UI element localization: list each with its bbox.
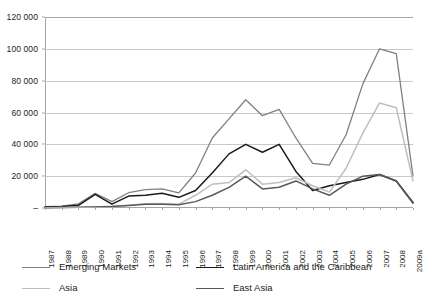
x-axis-tick [179,208,180,210]
y-axis-label: 80 000 [11,76,38,85]
y-axis-label: 120 000 [7,13,38,22]
legend-swatch-icon [22,288,50,289]
y-axis-label: 40 000 [11,140,38,149]
chart-legend: Emerging MarketsLatin America and the Ca… [0,258,418,304]
x-axis-tick [145,208,146,210]
legend-swatch-icon [196,267,224,268]
legend-item[interactable]: Latin America and the Caribbean [196,262,371,272]
y-axis-label: – [33,204,38,213]
x-axis-tick [45,208,46,210]
x-axis-tick [78,208,79,210]
x-axis-tick [279,208,280,210]
legend-item[interactable]: Asia [22,283,77,293]
y-axis: 120 000100 00080 00060 00040 00020 000– [0,17,42,208]
x-axis-tick [95,208,96,210]
y-axis-label: 60 000 [11,108,38,117]
legend-label: Asia [59,283,77,293]
x-axis-tick [62,208,63,210]
legend-swatch-icon [196,288,224,289]
y-axis-label: 100 000 [7,45,38,54]
series-layer [45,17,413,208]
x-axis-tick [129,208,130,210]
legend-label: East Asia [233,283,273,293]
x-axis-tick [162,208,163,210]
x-axis: 1987198819891990199119921993199419951996… [45,210,413,254]
x-axis-tick [112,208,113,210]
y-axis-label: 20 000 [11,172,38,181]
x-axis-tick [212,208,213,210]
plot-area [45,17,413,208]
legend-label: Latin America and the Caribbean [233,262,371,272]
x-axis-tick [396,208,397,210]
x-axis-tick [246,208,247,210]
legend-swatch-icon [22,267,50,268]
x-axis-tick [229,208,230,210]
x-axis-tick [380,208,381,210]
x-axis-tick [313,208,314,210]
x-axis-tick [363,208,364,210]
series-line [45,144,413,207]
x-axis-tick [262,208,263,210]
legend-label: Emerging Markets [59,262,136,272]
x-axis-tick [296,208,297,210]
x-axis-tick [346,208,347,210]
x-axis-tick [413,208,414,210]
x-axis-tick [329,208,330,210]
legend-item[interactable]: Emerging Markets [22,262,136,272]
x-axis-tick [196,208,197,210]
legend-item[interactable]: East Asia [196,283,273,293]
